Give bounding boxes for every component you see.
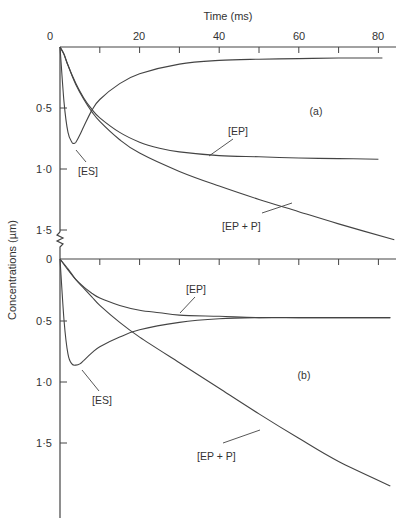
axis-break-icon: [57, 232, 63, 259]
y-tick-label-a-0.5: 0·5: [36, 102, 52, 114]
y-tick-label-a-1.0: 1·0: [36, 163, 52, 175]
y-tick-label-a-1.5: 1·5: [36, 224, 52, 236]
x-tick-label-80: 80: [372, 30, 384, 42]
x-tick-label-20: 20: [133, 30, 145, 42]
y-tick-label-b-1.0: 1·0: [36, 376, 52, 388]
es-label-a: [ES]: [78, 165, 98, 177]
panel-b-label: (b): [298, 369, 311, 381]
x-tick-label-0: 0: [47, 30, 53, 42]
ep-label-a: [EP]: [228, 125, 248, 137]
epp-label-a: [EP + P]: [222, 220, 261, 232]
series-line-ep-a: [60, 47, 378, 159]
epp-label-b: [EP + P]: [197, 450, 236, 462]
series-line-es-a: [60, 47, 382, 143]
x-tick-label-40: 40: [213, 30, 225, 42]
panel-a-axes: 0·5 1·0 1·5: [36, 47, 396, 259]
y-axis-title: Concentrations (µm): [6, 220, 18, 320]
panel-a-label: (a): [310, 105, 323, 117]
series-line-ep-b: [60, 259, 390, 318]
y-tick-label-b-1.5: 1·5: [36, 437, 52, 449]
ep-label-b: [EP]: [186, 283, 206, 295]
panel-b-axes: 0 0·5 1·0 1·5: [36, 253, 396, 518]
x-tick-label-60: 60: [293, 30, 305, 42]
series-line-es-b: [60, 259, 390, 365]
concentration-time-chart: Time (ms) 0 20 40 60 80 Concentrations (…: [0, 0, 405, 526]
es-label-b: [ES]: [92, 394, 112, 406]
x-axis-title: Time (ms): [203, 10, 252, 22]
y-tick-label-b-0: 0: [46, 253, 52, 265]
y-tick-label-b-0.5: 0·5: [36, 315, 52, 327]
